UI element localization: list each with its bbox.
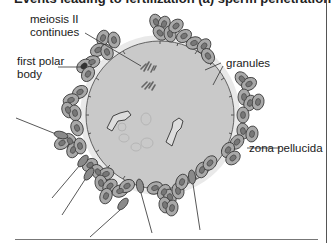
sperm-1 (16, 118, 69, 140)
sperm-4 (90, 196, 130, 237)
label-first-polar-body: first polar body (17, 55, 64, 81)
sperm-3 (62, 166, 96, 215)
label-meiosis-ii: meiosis II continues (30, 13, 79, 39)
frame-rule-bottom (15, 239, 318, 240)
label-granules: granules (226, 57, 270, 70)
label-zona-pellucida: zona pellucida (249, 142, 323, 155)
frame-border-right (326, 0, 327, 243)
